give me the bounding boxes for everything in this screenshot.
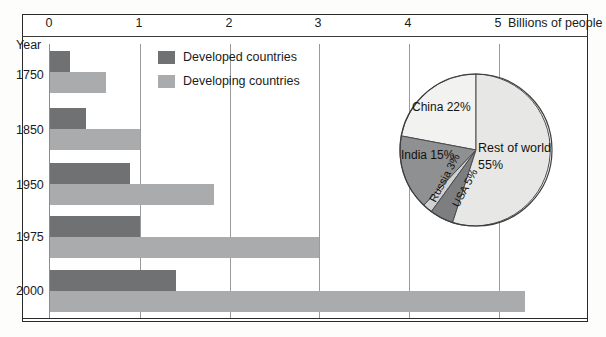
xtick-label-0: 0	[45, 16, 52, 30]
pie-label-rest-line2: 55%	[478, 157, 551, 174]
xtick-label-4: 4	[404, 16, 411, 30]
pie-label-rest-of-world: Rest of world 55%	[478, 140, 551, 174]
bar-developing-1975	[50, 237, 319, 258]
year-label-1950: 1950	[16, 178, 44, 192]
legend: Developed countries Developing countries	[158, 47, 300, 95]
axis-baseline	[22, 318, 588, 319]
y-axis-title: Year	[16, 38, 41, 52]
x-axis-title: Billions of people	[508, 16, 603, 30]
legend-item-developed: Developed countries	[158, 47, 300, 67]
year-label-2000: 2000	[16, 284, 44, 298]
year-label-1850: 1850	[16, 123, 44, 137]
legend-swatch-developing-icon	[158, 75, 175, 88]
bar-developed-1850	[50, 108, 86, 129]
gridline-3	[319, 44, 320, 318]
bar-developed-2000	[50, 270, 176, 291]
population-chart-figure: 0 1 2 3 4 5 Billions of people Year 1750…	[0, 0, 606, 337]
bar-developed-1950	[50, 163, 130, 184]
pie-label-china: China 22%	[412, 100, 471, 114]
pie-label-rest-line1: Rest of world	[478, 140, 551, 157]
legend-swatch-developed-icon	[158, 51, 175, 64]
xtick-label-2: 2	[225, 16, 232, 30]
bar-developing-2000	[50, 291, 525, 312]
bar-developing-1750	[50, 72, 106, 93]
bar-developed-1750	[50, 51, 70, 72]
legend-item-developing: Developing countries	[158, 71, 300, 91]
legend-label-developed: Developed countries	[183, 50, 297, 64]
bar-developing-1950	[50, 184, 214, 205]
bar-developing-1850	[50, 129, 140, 150]
xtick-label-1: 1	[135, 16, 142, 30]
xtick-label-5: 5	[494, 16, 501, 30]
year-label-1750: 1750	[16, 68, 44, 82]
xtick-label-3: 3	[314, 16, 321, 30]
axis-top-rule	[22, 36, 588, 37]
year-label-1975: 1975	[16, 230, 44, 244]
legend-label-developing: Developing countries	[183, 74, 300, 88]
bar-developed-1975	[50, 216, 140, 237]
